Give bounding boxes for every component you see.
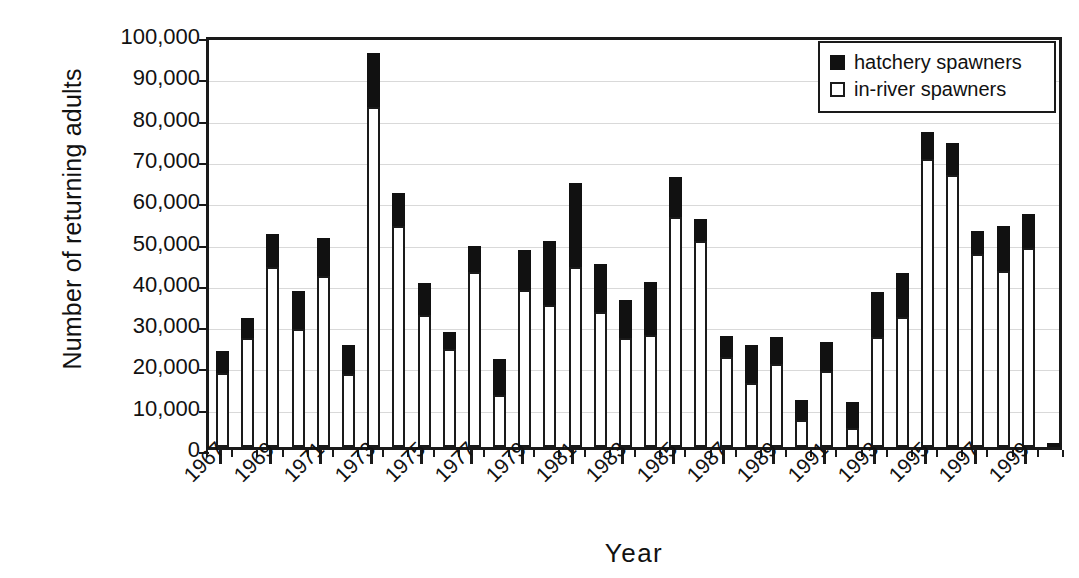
x-tick-label: 1979 xyxy=(481,437,531,487)
legend-label: in-river spawners xyxy=(854,78,1006,101)
filled-square-icon xyxy=(830,55,845,70)
x-tick-label: 1991 xyxy=(783,437,833,487)
x-tick-label: 1977 xyxy=(430,437,480,487)
x-tick-label: 1975 xyxy=(380,437,430,487)
x-tick-label: 1987 xyxy=(682,437,732,487)
open-square-icon xyxy=(830,82,845,97)
x-tick-label: 1989 xyxy=(732,437,782,487)
x-tick-label: 1971 xyxy=(279,437,329,487)
x-tick-label: 1999 xyxy=(984,437,1034,487)
x-axis-title: Year xyxy=(206,538,1062,569)
x-tick-label: 1981 xyxy=(531,437,581,487)
chart-legend: hatchery spawners in-river spawners xyxy=(818,41,1056,113)
legend-item-hatchery-spawners[interactable]: hatchery spawners xyxy=(830,49,1046,76)
x-tick-label: 1997 xyxy=(934,437,984,487)
legend-label: hatchery spawners xyxy=(854,51,1022,74)
x-tick-label: 1973 xyxy=(330,437,380,487)
x-tick-label: 1985 xyxy=(632,437,682,487)
x-tick-label: 1995 xyxy=(884,437,934,487)
x-tick-label: 1993 xyxy=(833,437,883,487)
x-tick-label: 1969 xyxy=(229,437,279,487)
x-tick-label: 1967 xyxy=(179,437,229,487)
chart-figure: Number of returning adults 100,00090,000… xyxy=(0,0,1079,578)
legend-item-in-river-spawners[interactable]: in-river spawners xyxy=(830,76,1046,103)
x-tick-label: 1983 xyxy=(581,437,631,487)
